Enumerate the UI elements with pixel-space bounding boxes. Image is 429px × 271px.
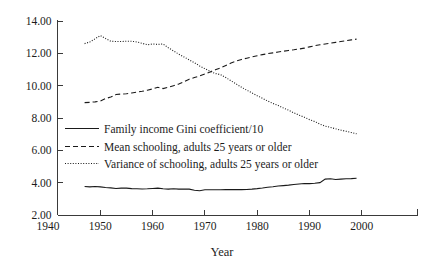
y-axis-tick-label: 14.00 — [26, 15, 52, 27]
legend-label-0: Family income Gini coefficient/10 — [104, 123, 263, 136]
chart-axes — [58, 20, 418, 215]
chart-container: 2.004.006.008.0010.0012.0014.00 19401950… — [0, 0, 429, 271]
line-chart: 2.004.006.008.0010.0012.0014.00 19401950… — [0, 0, 429, 271]
x-axis-tick-label: 1980 — [246, 220, 269, 232]
series-line-1 — [85, 39, 357, 103]
chart-legend: Family income Gini coefficient/10Mean sc… — [65, 123, 318, 171]
x-axis-tick-label: 1990 — [298, 220, 321, 232]
y-axis-tick-label: 6.00 — [31, 144, 51, 156]
x-axis-tick-label: 1970 — [193, 220, 216, 232]
x-axis-tick-label: 1950 — [89, 220, 112, 232]
x-axis-tick-label: 1960 — [141, 220, 164, 232]
series-line-2 — [85, 36, 357, 134]
x-axis-tick-label: 2000 — [350, 220, 373, 232]
y-axis-tick-label: 8.00 — [31, 112, 51, 124]
legend-label-1: Mean schooling, adults 25 years or older — [104, 141, 292, 154]
y-axis-tick-labels: 2.004.006.008.0010.0012.0014.00 — [26, 15, 52, 221]
y-axis-tick-label: 10.00 — [26, 80, 52, 92]
x-axis-line — [58, 209, 418, 215]
y-axis-ticks — [58, 21, 63, 215]
x-axis-tick-labels: 1940195019601970198019902000 — [37, 220, 374, 232]
series-line-0 — [85, 178, 357, 190]
x-axis-tick-label: 1940 — [37, 220, 60, 232]
x-axis-title: Year — [210, 245, 234, 259]
y-axis-tick-label: 12.00 — [26, 47, 52, 59]
x-axis-ticks — [100, 210, 362, 215]
y-axis-tick-label: 4.00 — [31, 177, 51, 189]
legend-label-2: Variance of schooling, adults 25 years o… — [104, 158, 318, 171]
